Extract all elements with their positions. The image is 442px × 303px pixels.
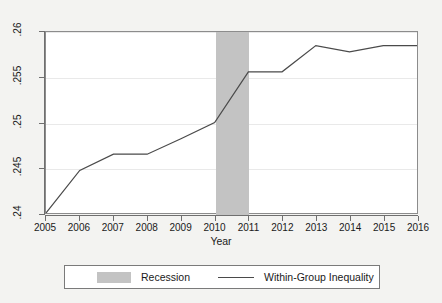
legend-line-series-icon bbox=[218, 277, 254, 278]
x-tick-mark bbox=[181, 216, 182, 221]
legend-item-recession: Recession bbox=[97, 271, 190, 283]
y-axis-line bbox=[44, 31, 45, 215]
y-tick-mark bbox=[39, 168, 44, 169]
legend-item-within-group-inequality: Within-Group Inequality bbox=[218, 271, 374, 283]
plot-area bbox=[45, 31, 418, 214]
y-tick-mark bbox=[39, 214, 44, 215]
x-tick-label: 2016 bbox=[398, 222, 438, 233]
y-tick-label: .26 bbox=[12, 13, 23, 47]
legend-label-within-group-inequality: Within-Group Inequality bbox=[264, 271, 374, 283]
x-axis-title: Year bbox=[0, 235, 442, 247]
y-tick-label: .245 bbox=[12, 150, 23, 184]
y-tick-mark bbox=[39, 31, 44, 32]
x-tick-mark bbox=[45, 216, 46, 221]
y-tick-mark bbox=[39, 77, 44, 78]
x-tick-mark bbox=[350, 216, 351, 221]
legend-label-recession: Recession bbox=[141, 271, 190, 283]
y-tick-label: .25 bbox=[12, 104, 23, 138]
series-within-group-inequality bbox=[46, 32, 417, 213]
y-tick-label: .24 bbox=[12, 196, 23, 230]
x-tick-mark bbox=[147, 216, 148, 221]
x-tick-mark bbox=[113, 216, 114, 221]
legend-swatch-recession-icon bbox=[97, 272, 131, 283]
y-tick-mark bbox=[39, 123, 44, 124]
x-tick-mark bbox=[418, 216, 419, 221]
chart-figure: .24.245.25.255.26 2005200620072008200920… bbox=[0, 0, 442, 303]
x-tick-mark bbox=[215, 216, 216, 221]
y-tick-label: .255 bbox=[12, 58, 23, 92]
x-tick-mark bbox=[248, 216, 249, 221]
x-tick-mark bbox=[316, 216, 317, 221]
x-axis-line bbox=[45, 215, 418, 216]
x-tick-mark bbox=[79, 216, 80, 221]
x-tick-mark bbox=[282, 216, 283, 221]
x-tick-mark bbox=[384, 216, 385, 221]
chart-legend: Recession Within-Group Inequality bbox=[64, 265, 380, 289]
